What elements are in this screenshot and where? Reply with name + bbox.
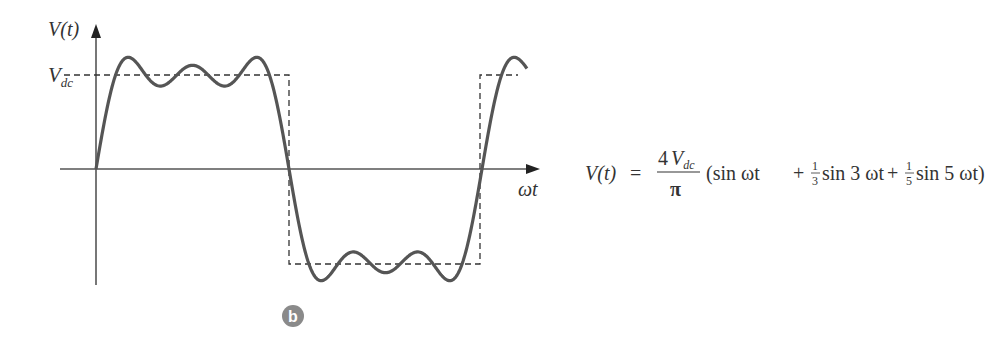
svg-text:+: + bbox=[793, 162, 804, 184]
svg-text:5: 5 bbox=[906, 174, 912, 188]
y-axis-label: V(t) bbox=[48, 18, 79, 41]
svg-text:π: π bbox=[670, 178, 681, 200]
badge-label: b bbox=[288, 308, 298, 325]
y-axis-arrow-icon bbox=[91, 24, 101, 38]
svg-text:(sin ωt: (sin ωt bbox=[706, 162, 760, 185]
fourier-square-wave-figure: V(t) Vdc ωt b V(t) = 4Vdc π (sin ωt + 1 … bbox=[0, 0, 991, 348]
svg-text:V(t): V(t) bbox=[585, 162, 616, 185]
svg-text:3: 3 bbox=[812, 174, 818, 188]
fourier-equation: V(t) = 4Vdc π (sin ωt + 1 3 sin 3 ωt + 1… bbox=[585, 147, 985, 200]
svg-text:1: 1 bbox=[906, 159, 912, 173]
vdc-label: Vdc bbox=[48, 63, 73, 90]
svg-text:4Vdc: 4Vdc bbox=[658, 147, 695, 172]
svg-text:sin 5 ωt): sin 5 ωt) bbox=[916, 162, 985, 185]
svg-text:1: 1 bbox=[812, 159, 818, 173]
x-axis-arrow-icon bbox=[526, 164, 540, 174]
svg-text:sin 3 ωt: sin 3 ωt bbox=[822, 162, 885, 184]
svg-text:+: + bbox=[887, 162, 898, 184]
x-axis-label: ωt bbox=[518, 178, 538, 200]
svg-text:=: = bbox=[630, 162, 641, 184]
